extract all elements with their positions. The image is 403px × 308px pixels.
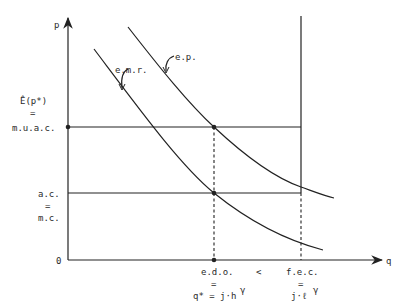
qstar-superscript: γ [240,285,245,295]
fec-label: f.e.c. [286,267,319,277]
edo-label: e.d.o. [201,267,234,277]
less-than-sign: < [256,267,262,277]
ep-pointer-arrow [166,56,174,71]
ep-star-label: Ê(p*) [20,95,47,106]
origin-label: 0 [56,256,61,266]
ep-curve [128,27,334,198]
ac-eq: = [45,201,51,211]
ac-label: a.c. [38,189,60,199]
emr-intersection-point [212,191,217,196]
ep-label: e.p. [175,52,197,62]
jl-superscript: γ [313,285,318,295]
ep-star-eq: = [30,108,36,118]
fec-eq: = [298,279,304,289]
y-axis-label: p [54,20,59,30]
mc-label: m.c. [38,213,60,223]
muac-label: m.u.a.c. [12,123,55,133]
edo-point [212,258,217,263]
emr-curve [94,49,323,250]
qstar-label: q* = j·h [193,291,236,301]
edo-eq: = [211,279,217,289]
ep-intersection-point [212,125,217,130]
emr-label: e.m.r. [115,65,148,75]
muac-point [66,125,71,130]
jl-label: j·ℓ [291,291,307,301]
economics-diagram: p q 0 e.m.r. e.p. Ê(p*) = m.u.a.c. a.c. … [0,0,403,308]
x-axis-label: q [386,256,391,266]
